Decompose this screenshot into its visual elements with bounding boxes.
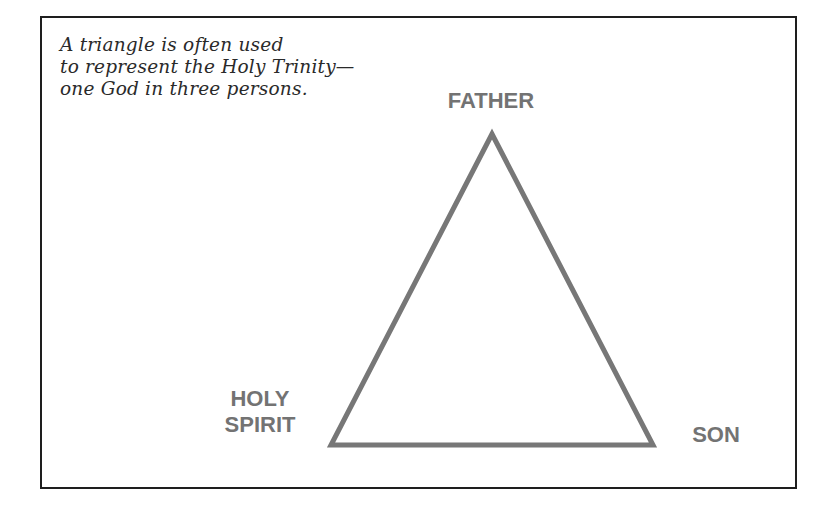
vertex-label-son: SON [684, 422, 748, 448]
triangle-shape [331, 134, 653, 445]
vertex-label-line: SPIRIT [212, 412, 308, 438]
vertex-label-line: HOLY [212, 386, 308, 412]
vertex-label-holy-spirit: HOLY SPIRIT [212, 386, 308, 438]
vertex-label-father: FATHER [436, 88, 546, 114]
